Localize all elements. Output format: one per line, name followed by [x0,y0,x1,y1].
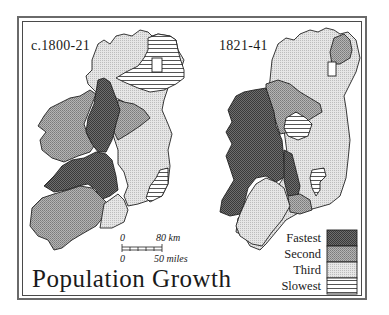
scale-miles-value: 50 miles [154,253,188,264]
region-third-south [100,194,128,228]
map-1821-41 [220,28,360,250]
map-label-1800-21: c.1800-21 [31,38,90,54]
scale-miles-zero: 0 [120,253,125,264]
legend-label-third: Third [251,263,321,278]
scale-km-value: 80 km [156,232,180,243]
legend-swatch-fastest [327,230,357,246]
scale-bar [122,244,162,252]
figure-title: Population Growth [32,265,231,293]
region-lough-neagh [152,58,162,72]
legend-swatches [327,230,357,294]
legend-swatch-third [327,262,357,278]
legend-swatch-slowest [327,278,357,294]
region-lough-neagh [328,62,336,76]
legend-label-slowest: Slowest [251,279,321,294]
legend-swatch-second [327,246,357,262]
map-label-1821-41: 1821-41 [219,38,268,54]
map-1800-21 [30,30,184,250]
legend-label-fastest: Fastest [251,231,321,246]
scale-km-zero: 0 [120,232,125,243]
region-second-south [30,186,108,250]
legend-label-second: Second [251,247,321,262]
